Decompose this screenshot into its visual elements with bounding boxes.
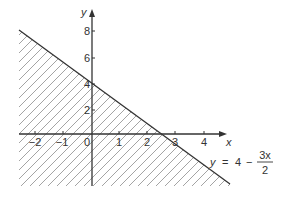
- equation-denominator: 2: [262, 164, 268, 176]
- y-tick-label: 8: [84, 25, 90, 37]
- x-axis-label: x: [225, 136, 232, 148]
- inequality-graph: −2 −1 0 1 2 3 4 2 4 6 8 x y y = 4 − 3x 2: [0, 0, 286, 200]
- x-tick-label: −2: [29, 136, 42, 148]
- y-tick-label: 4: [84, 78, 90, 90]
- y-tick-label: 6: [84, 52, 90, 64]
- y-axis-arrow-icon: [89, 9, 95, 17]
- x-tick-label: 4: [201, 136, 207, 148]
- equation-minus: −: [246, 156, 252, 168]
- x-tick-label: 1: [116, 136, 122, 148]
- equation-numerator: 3x: [259, 149, 271, 161]
- shaded-region-hatching: [0, 0, 286, 200]
- equation-constant: 4: [235, 156, 241, 168]
- equation-annotation: y = 4 − 3x 2: [209, 149, 273, 176]
- x-tick-label: 0: [84, 136, 90, 148]
- x-tick-label: −1: [56, 136, 69, 148]
- boundary-line: [19, 30, 230, 184]
- equation-lhs: y: [209, 156, 217, 168]
- x-tick-label: 3: [172, 136, 178, 148]
- y-axis-label: y: [80, 6, 88, 18]
- equation-equals: =: [222, 156, 228, 168]
- y-tick-label: 2: [84, 104, 90, 116]
- x-tick-label: 2: [144, 136, 150, 148]
